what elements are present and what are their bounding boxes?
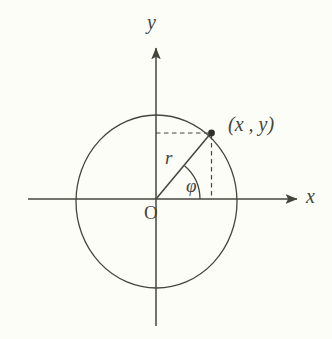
point-coordinates-label: (x , y) (228, 114, 274, 134)
y-axis-label: y (147, 12, 156, 32)
angle-phi-label: φ (186, 176, 197, 195)
polar-coordinates-diagram: y x r φ (x , y) O (0, 0, 332, 339)
radius-label: r (165, 148, 172, 167)
origin-label: O (144, 203, 158, 222)
diagram-canvas (0, 0, 332, 339)
point-marker (208, 130, 215, 137)
x-axis-label: x (306, 186, 315, 206)
